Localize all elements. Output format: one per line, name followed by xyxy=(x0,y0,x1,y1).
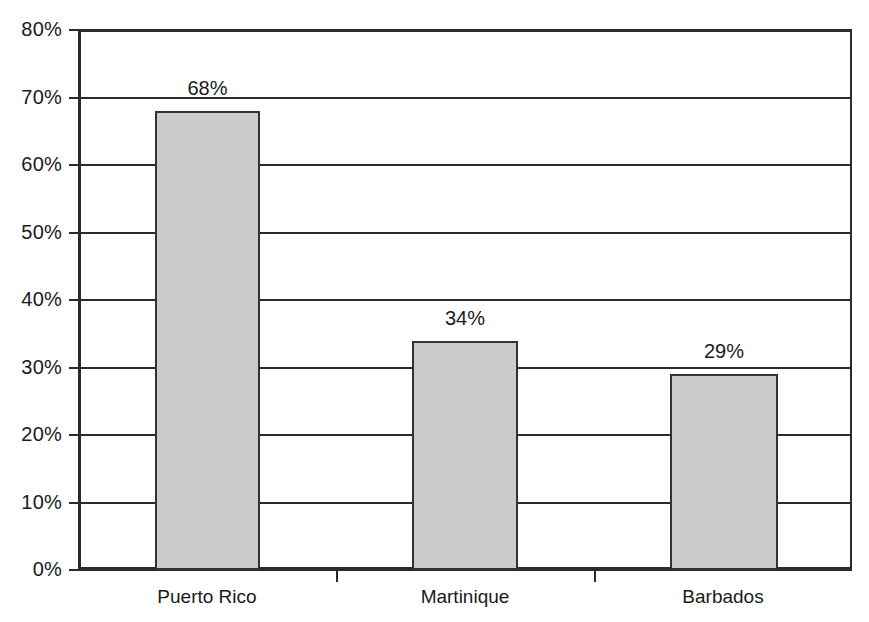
gridline xyxy=(78,29,852,31)
x-axis-category-label: Puerto Rico xyxy=(78,586,336,608)
x-axis-tick xyxy=(336,570,338,582)
y-axis-tick-label: 30% xyxy=(6,357,62,377)
bar xyxy=(412,341,518,571)
y-axis-tick-label: 0% xyxy=(6,559,62,579)
y-axis-tick-label: 60% xyxy=(6,154,62,174)
bar xyxy=(155,111,260,570)
y-axis-tick-label: 70% xyxy=(6,87,62,107)
y-axis-tick-label: 20% xyxy=(6,424,62,444)
y-axis-tick-label: 50% xyxy=(6,222,62,242)
y-axis-tick xyxy=(69,232,78,234)
y-axis-tick xyxy=(69,367,78,369)
y-axis-tick xyxy=(69,299,78,301)
x-axis-category-label: Martinique xyxy=(336,586,594,608)
y-axis-tick xyxy=(69,434,78,436)
x-axis-category-label: Barbados xyxy=(594,586,852,608)
y-axis-tick-label: 80% xyxy=(6,19,62,39)
y-axis-tick-label: 40% xyxy=(6,289,62,309)
y-axis-tick xyxy=(69,164,78,166)
bar-value-label: 29% xyxy=(670,340,778,362)
y-axis-tick xyxy=(69,569,78,571)
bar xyxy=(670,374,778,570)
y-axis-tick xyxy=(69,29,78,31)
y-axis-tick-label: 10% xyxy=(6,492,62,512)
bar-chart: 0%10%20%30%40%50%60%70%80% 68%34%29% Pue… xyxy=(0,0,869,622)
y-axis-tick xyxy=(69,502,78,504)
y-axis-tick xyxy=(69,97,78,99)
bar-value-label: 34% xyxy=(412,307,518,329)
x-axis-tick xyxy=(594,570,596,582)
bar-value-label: 68% xyxy=(155,77,260,99)
